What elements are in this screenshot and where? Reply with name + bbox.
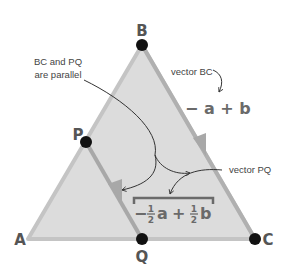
label-p: P (73, 126, 84, 144)
svg-text:1: 1 (148, 204, 154, 214)
svg-text:b: b (200, 204, 211, 223)
vector-pq-note: vector PQ (229, 164, 271, 175)
label-c: C (262, 231, 273, 249)
label-q: Q (136, 248, 149, 266)
point-c-dot (249, 233, 261, 245)
parallel-note-line2: are parallel (35, 69, 82, 80)
vector-pq-expression: − 1 2 a + 1 2 b (134, 204, 211, 225)
svg-text:2: 2 (148, 215, 154, 225)
point-b-dot (136, 39, 148, 51)
svg-text:+: + (172, 204, 185, 223)
svg-text:2: 2 (191, 215, 197, 225)
svg-text:a: a (157, 204, 168, 223)
svg-text:−: − (134, 204, 147, 223)
vector-bc-expression: − a + b (185, 99, 251, 118)
point-q-dot (136, 233, 148, 245)
label-a: A (14, 231, 26, 249)
label-b: B (136, 22, 147, 40)
svg-text:1: 1 (191, 204, 197, 214)
vector-bc-pointer (213, 70, 222, 92)
vector-bc-note: vector BC (171, 66, 213, 77)
parallel-note-line1: BC and PQ (34, 56, 82, 67)
vector-triangle-diagram: B P A Q C BC and PQ are parallel vector … (0, 0, 285, 276)
